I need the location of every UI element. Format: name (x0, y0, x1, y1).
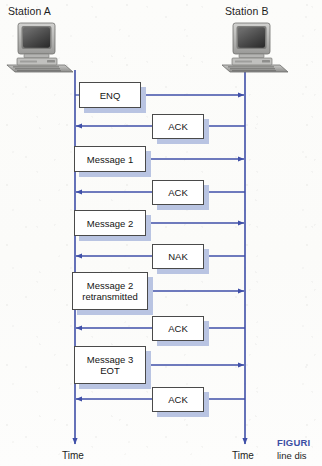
time-label-station-b: Time (232, 450, 254, 461)
message-box-message-3-eot[interactable]: Message 3EOT (74, 346, 146, 384)
time-label-station-a: Time (62, 450, 84, 461)
message-box-label-nak: NAK (168, 251, 188, 262)
figure-canvas: Station A Station B (0, 0, 322, 466)
message-box-message-2[interactable]: Message 2 (74, 210, 146, 236)
message-box-message-2-rtx[interactable]: Message 2retransmitted (72, 272, 148, 310)
message-box-ack-4[interactable]: ACK (152, 387, 204, 412)
message-box-message-1[interactable]: Message 1 (74, 146, 146, 172)
message-box-label-ack-4: ACK (168, 394, 188, 405)
message-box-label-message-3-eot-line-1: Message 3 (87, 354, 133, 365)
message-box-label-message-2-rtx-line-1: Message 2 (87, 280, 133, 291)
desktop-computer-icon-station-b (218, 22, 292, 78)
desktop-computer-icon-station-a (3, 22, 77, 78)
message-box-label-ack-3: ACK (168, 323, 188, 334)
caption-figure-word: FIGURI (277, 437, 322, 448)
message-box-label-ack-1: ACK (168, 121, 188, 132)
message-box-enq[interactable]: ENQ (79, 82, 141, 108)
message-box-label-enq: ENQ (100, 90, 121, 101)
message-box-nak[interactable]: NAK (152, 244, 204, 269)
message-box-label-message-2: Message 2 (87, 218, 133, 229)
message-box-ack-3[interactable]: ACK (152, 316, 204, 341)
message-box-label-ack-2: ACK (168, 187, 188, 198)
message-box-label-message-3-eot-line-2: EOT (100, 365, 120, 376)
caption-body-text: line dis (277, 450, 322, 461)
message-box-ack-1[interactable]: ACK (152, 114, 204, 139)
message-box-label-message-1: Message 1 (87, 154, 133, 165)
message-box-label-message-2-rtx-line-2: retransmitted (82, 291, 137, 302)
message-box-ack-2[interactable]: ACK (152, 180, 204, 205)
